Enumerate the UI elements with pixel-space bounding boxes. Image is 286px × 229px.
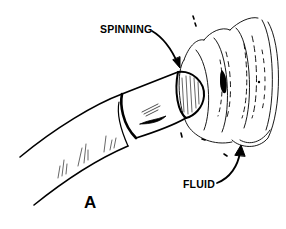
- fluid-arrow: [217, 145, 245, 183]
- panel-label: A: [84, 194, 96, 211]
- spinning-arrow: [152, 31, 180, 68]
- shaft-end: [176, 72, 204, 118]
- rotating-shaft: [20, 94, 128, 205]
- spinning-label: SPINNING: [100, 24, 152, 35]
- fluid-label: FLUID: [183, 179, 215, 190]
- fluid-droplets: [181, 16, 227, 156]
